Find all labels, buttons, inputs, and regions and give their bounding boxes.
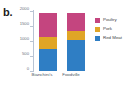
legend-label: Poultry [103, 18, 117, 22]
bar-segment-poultry [67, 13, 85, 31]
bar-segment-redmeat [39, 49, 57, 72]
stacked-bar [39, 13, 57, 72]
bar-segment-redmeat [67, 40, 85, 72]
y-tick-mark [30, 11, 33, 12]
chart-legend: PoultryPorkRed Meat [95, 18, 122, 41]
bar-segment-pork [67, 31, 85, 40]
legend-item[interactable]: Red Meat [95, 36, 122, 41]
x-axis-label: Foodville [55, 73, 87, 77]
bar-segment-pork [39, 37, 57, 49]
y-tick-label: 2000 [20, 7, 29, 11]
y-tick-label: 1000 [20, 37, 29, 41]
y-tick-mark [30, 26, 33, 27]
panel-letter-label: b. [3, 7, 12, 18]
legend-item[interactable]: Poultry [95, 18, 122, 23]
y-tick-label: 0 [27, 67, 29, 71]
y-tick-mark [30, 41, 33, 42]
x-axis-label: Bianchini's [26, 73, 58, 77]
figure-panel-b: b. 0500100015002000 Bianchini'sFoodville… [0, 0, 132, 85]
legend-label: Red Meat [103, 36, 122, 40]
y-tick-label: 1500 [20, 22, 29, 26]
y-tick-mark [30, 56, 33, 57]
plot-area: 0500100015002000 Bianchini'sFoodville [33, 11, 93, 71]
legend-item[interactable]: Pork [95, 27, 122, 32]
stacked-bar [67, 13, 85, 72]
legend-swatch-icon [95, 27, 100, 32]
legend-swatch-icon [95, 36, 100, 41]
legend-label: Pork [103, 27, 112, 31]
bar-segment-poultry [39, 13, 57, 37]
legend-swatch-icon [95, 18, 100, 23]
y-tick-label: 500 [22, 52, 29, 56]
